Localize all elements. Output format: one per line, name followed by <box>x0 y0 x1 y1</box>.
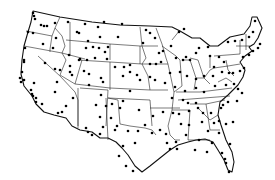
location-dot <box>202 112 205 115</box>
location-dot <box>40 24 43 27</box>
location-dot <box>54 22 57 25</box>
location-dot <box>178 31 181 34</box>
location-dot <box>99 133 102 136</box>
location-dot <box>259 43 262 46</box>
location-dot <box>27 31 30 34</box>
location-dot <box>149 32 152 35</box>
location-dot <box>228 72 231 75</box>
location-dot <box>44 62 47 65</box>
location-dot <box>84 23 87 26</box>
location-dot <box>114 129 117 132</box>
location-dot <box>186 75 189 78</box>
location-dot <box>95 104 98 107</box>
location-dot <box>68 54 71 57</box>
location-dot <box>175 57 178 60</box>
location-dot <box>32 32 35 35</box>
location-dot <box>72 97 75 100</box>
location-dot <box>132 170 135 173</box>
location-dot <box>207 130 210 133</box>
location-dot <box>121 23 124 26</box>
location-dot <box>218 120 221 123</box>
location-dot <box>116 125 119 128</box>
location-dot <box>21 71 24 74</box>
location-dot <box>170 45 173 48</box>
location-dot <box>20 81 23 84</box>
location-dot <box>33 15 36 18</box>
location-dot <box>138 109 141 112</box>
location-dot <box>119 107 122 110</box>
location-dot <box>139 79 142 82</box>
location-dot <box>110 117 113 120</box>
location-dot <box>159 129 162 132</box>
location-dot <box>125 165 128 168</box>
location-dot <box>107 46 110 49</box>
location-dot <box>122 75 125 78</box>
location-dot <box>185 134 188 137</box>
location-dot <box>144 124 147 127</box>
location-dot <box>195 52 198 55</box>
location-dot <box>179 71 182 74</box>
location-dot <box>228 171 231 174</box>
location-dot <box>252 50 255 53</box>
location-dot <box>209 55 212 58</box>
location-dot <box>127 130 130 133</box>
location-dot <box>149 76 152 79</box>
location-dot <box>198 47 201 50</box>
location-dot <box>195 87 198 90</box>
location-dot <box>114 66 117 69</box>
location-dot <box>87 40 90 43</box>
location-dot <box>98 47 101 50</box>
location-dot <box>78 59 81 62</box>
location-dot <box>86 59 89 62</box>
location-dot <box>105 105 108 108</box>
location-dot <box>88 84 91 87</box>
location-dot <box>78 32 81 35</box>
location-dot <box>182 99 185 102</box>
location-dot <box>233 83 236 86</box>
location-dot <box>23 79 26 82</box>
location-dot <box>129 64 132 67</box>
location-dot <box>91 134 94 137</box>
location-dot <box>195 102 198 105</box>
location-dot <box>102 126 105 129</box>
location-dot <box>232 72 235 75</box>
location-dot <box>225 162 228 165</box>
location-dot <box>136 74 139 77</box>
location-dot <box>221 71 224 74</box>
location-dot <box>218 56 221 59</box>
location-dot <box>184 90 187 93</box>
location-dot <box>100 77 103 80</box>
location-dot <box>241 39 244 42</box>
location-dot <box>19 77 22 80</box>
location-dot <box>134 142 137 145</box>
location-dot <box>162 111 165 114</box>
location-dot <box>225 84 228 87</box>
location-dot <box>56 81 59 84</box>
location-dot <box>225 123 228 126</box>
location-dot <box>154 79 157 82</box>
location-dot <box>195 78 198 81</box>
location-dot <box>166 142 169 145</box>
location-dot <box>162 50 165 53</box>
location-dot <box>129 71 132 74</box>
location-dot <box>104 51 107 54</box>
location-dot <box>111 103 114 106</box>
location-dot <box>32 95 35 98</box>
location-dot <box>218 132 221 135</box>
location-dot <box>220 107 223 110</box>
location-dot <box>32 12 35 15</box>
location-dot <box>222 104 225 107</box>
location-dot <box>102 81 105 84</box>
location-dot <box>52 47 55 50</box>
location-dot <box>232 121 235 124</box>
location-dot <box>194 149 197 152</box>
location-dot <box>65 105 68 108</box>
location-dot <box>227 41 230 44</box>
location-dot <box>252 31 255 34</box>
us-map <box>0 0 275 180</box>
location-dot <box>152 115 155 118</box>
location-dot <box>122 145 125 148</box>
location-dot <box>206 151 209 154</box>
location-dot <box>67 21 70 24</box>
location-dot <box>149 63 152 66</box>
